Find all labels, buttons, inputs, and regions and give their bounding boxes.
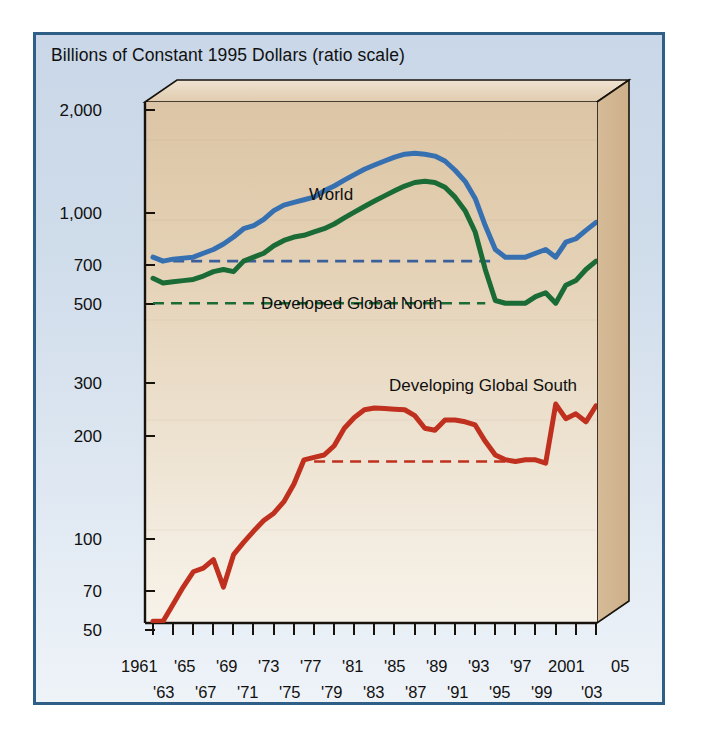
- annotation-developed-global-north: Developed Global North: [261, 294, 442, 314]
- x-tick-label-1977: '77: [300, 657, 322, 676]
- x-axis-ticks: [153, 623, 596, 635]
- x-tick-label-2003: '03: [581, 683, 603, 702]
- annotation-developing-global-south: Developing Global South: [389, 376, 577, 396]
- x-tick-label-1961: 1961: [121, 657, 158, 676]
- x-tick-label-1979: '79: [321, 683, 343, 702]
- x-tick-label-1969: '69: [216, 657, 238, 676]
- y-tick-label-500: 500: [30, 295, 102, 315]
- x-tick-label-1987: '87: [405, 683, 427, 702]
- y-tick-label-1000: 1,000: [30, 204, 102, 224]
- y-tick-label-700: 700: [30, 256, 102, 276]
- x-tick-label-1973: '73: [258, 657, 280, 676]
- x-tick-label-1971: '71: [237, 683, 259, 702]
- x-tick-label-2001: 2001: [548, 657, 585, 676]
- y-tick-label-200: 200: [30, 427, 102, 447]
- chart-frame: Billions of Constant 1995 Dollars (ratio…: [33, 32, 665, 705]
- x-tick-label-1991: '91: [447, 683, 469, 702]
- x-tick-label-1993: '93: [468, 657, 490, 676]
- y-tick-label-70: 70: [30, 582, 102, 602]
- x-tick-label-1997: '97: [510, 657, 532, 676]
- chart-canvas: [113, 80, 653, 650]
- x-tick-label-2005: 05: [611, 657, 629, 676]
- x-tick-label-1967: '67: [195, 683, 217, 702]
- x-tick-label-1965: '65: [174, 657, 196, 676]
- figure-root: Billions of Constant 1995 Dollars (ratio…: [0, 0, 701, 740]
- y-tick-label-50: 50: [30, 621, 102, 641]
- box-top-face: [145, 80, 629, 102]
- box-right-face: [597, 80, 629, 623]
- x-tick-label-1985: '85: [384, 657, 406, 676]
- x-tick-label-1989: '89: [426, 657, 448, 676]
- annotation-world: World: [309, 185, 353, 205]
- x-tick-label-1981: '81: [342, 657, 364, 676]
- y-tick-label-300: 300: [30, 374, 102, 394]
- x-tick-label-1995: '95: [489, 683, 511, 702]
- x-tick-label-1975: '75: [279, 683, 301, 702]
- chart-title: Billions of Constant 1995 Dollars (ratio…: [51, 45, 405, 66]
- chart-3d-box: World Developed Global North Developing …: [113, 80, 653, 650]
- y-tick-label-2000: 2,000: [30, 101, 102, 121]
- x-tick-label-1999: '99: [531, 683, 553, 702]
- y-tick-label-100: 100: [30, 530, 102, 550]
- plot-area: [145, 102, 597, 623]
- x-tick-label-1963: '63: [153, 683, 175, 702]
- x-tick-label-1983: '83: [363, 683, 385, 702]
